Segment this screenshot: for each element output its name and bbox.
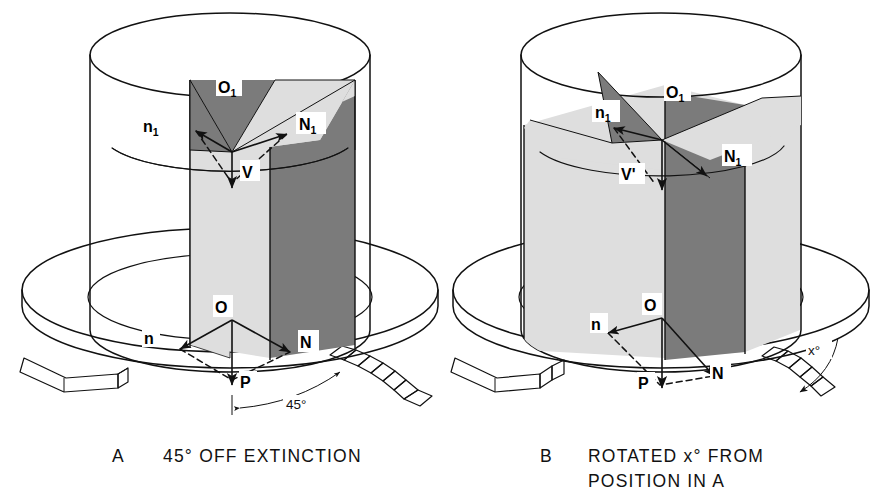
caption-b-line1: ROTATED x° FROM <box>588 446 764 466</box>
label-v-a: V <box>242 164 253 181</box>
label-N-b: N <box>712 365 724 382</box>
angle-x-label: x° <box>808 343 820 358</box>
label-p-a: P <box>240 374 251 391</box>
label-n-b: n <box>591 316 601 333</box>
figure-container: 45° O1 n1 N1 V O n N <box>0 0 889 501</box>
caption-a-letter: A <box>112 446 125 466</box>
label-N-a: N <box>300 334 312 351</box>
caption-a-text: 45° OFF EXTINCTION <box>163 446 362 466</box>
angle-45-label: 45° <box>286 397 306 412</box>
caption-b-line2: POSITION IN A <box>588 471 725 491</box>
crystal-stage-diagram: 45° O1 n1 N1 V O n N <box>0 0 889 501</box>
label-p-b: P <box>638 375 649 392</box>
label-vprime-b: V' <box>621 166 635 183</box>
caption-b-letter: B <box>540 446 553 466</box>
label-o-a: O <box>215 299 227 316</box>
label-n-a: n <box>144 330 154 347</box>
label-o-b: O <box>644 297 656 314</box>
